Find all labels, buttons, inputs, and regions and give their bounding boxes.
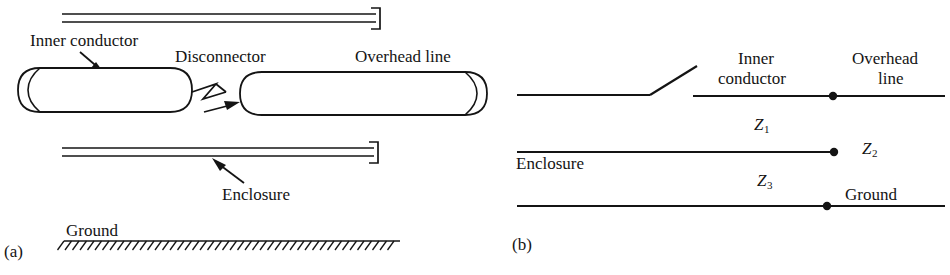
label-enclosure-b: Enclosure (516, 155, 584, 172)
disconnector-gap-symbol (192, 84, 240, 112)
bottom-enclosure-wall (62, 142, 378, 163)
node-dot-bottom (823, 202, 831, 210)
label-inner-conductor-b-line1: Inner (738, 50, 774, 67)
enclosure-pointer-arrow (212, 158, 244, 183)
node-dot-top (829, 92, 837, 100)
impedance-z3-subscript: 3 (766, 179, 772, 191)
top-enclosure-wall (62, 8, 380, 29)
open-switch-symbol (517, 66, 697, 95)
right-inner-conductor-cylinder (240, 72, 487, 115)
label-impedance-z3: Z3 (757, 172, 772, 191)
label-ground-b: Ground (845, 186, 897, 203)
label-disconnector-a: Disconnector (175, 48, 266, 65)
panel-caption-a: (a) (4, 243, 23, 260)
figure-canvas (0, 0, 950, 275)
impedance-z1-subscript: 1 (763, 123, 769, 135)
label-inner-conductor-b-line2: conductor (718, 70, 786, 87)
label-overhead-line-b-line1: Overhead (852, 50, 918, 67)
panel-caption-b: (b) (512, 236, 532, 253)
label-inner-conductor-a: Inner conductor (30, 32, 138, 49)
ground-plane-hatch (58, 241, 401, 250)
label-impedance-z1: Z1 (754, 116, 769, 135)
label-impedance-z2: Z2 (862, 140, 877, 159)
label-enclosure-a: Enclosure (222, 186, 290, 203)
label-overhead-line-b-line2: line (878, 70, 904, 87)
left-inner-conductor-cylinder (18, 68, 192, 112)
label-overhead-line-a: Overhead line (355, 48, 451, 65)
label-ground-a: Ground (66, 222, 118, 239)
inner-conductor-line-b (693, 92, 945, 100)
node-dot-middle (830, 148, 838, 156)
impedance-z2-subscript: 2 (871, 147, 877, 159)
